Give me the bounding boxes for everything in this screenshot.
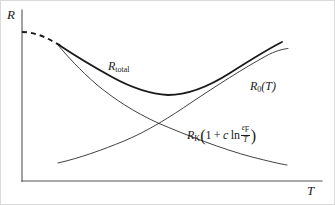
rk-log-operator: ln xyxy=(231,128,240,142)
rk-coefficient: c xyxy=(223,128,228,142)
rk-fraction-denominator: T xyxy=(241,135,251,144)
rk-close-paren: ) xyxy=(251,127,256,144)
x-axis-label: T xyxy=(307,184,314,197)
rk-fraction: εFT xyxy=(241,124,251,144)
r0-argument: (T) xyxy=(261,79,276,93)
curve-label-r0: R0(T) xyxy=(250,80,276,94)
rk-fermi-energy-subscript: F xyxy=(245,125,249,134)
rk-fraction-numerator: εF xyxy=(241,124,251,135)
y-axis-label: R xyxy=(7,8,15,21)
plot-canvas xyxy=(0,0,335,205)
figure-border xyxy=(1,1,335,205)
curve-label-r-total: Rtotal xyxy=(108,60,130,74)
curve-label-rk: RK(1 + c lnεFT) xyxy=(187,124,256,144)
rk-one: 1 xyxy=(205,128,211,142)
r-total-subscript: total xyxy=(115,65,129,74)
rk-plus-operator: + xyxy=(214,128,221,142)
resistance-vs-temperature-figure: R T Rtotal R0(T) RK(1 + c lnεFT) xyxy=(0,0,335,205)
